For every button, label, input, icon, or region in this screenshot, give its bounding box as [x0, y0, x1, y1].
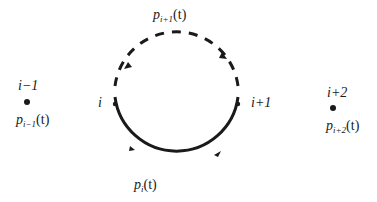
label-base: p: [134, 177, 141, 192]
node-i-label: i: [98, 96, 102, 110]
node-i-dot: [113, 102, 117, 106]
label-sub: i−1: [23, 119, 36, 129]
node-i2-prob: pi+2(t): [326, 119, 359, 135]
label-arg: (t): [346, 118, 359, 133]
arrow-icon: [124, 62, 132, 69]
label-sub: i+2: [333, 125, 346, 135]
arrow-icon: [129, 146, 135, 151]
node-im1-prob: pi−1(t): [16, 113, 49, 129]
label-base: p: [153, 7, 160, 22]
node-i2-dot: [330, 105, 336, 111]
arc-label-dashed: pi+1(t): [153, 8, 186, 24]
label-arg: (t): [36, 112, 49, 127]
node-im1-label: i−1: [18, 79, 38, 93]
label-base: p: [16, 112, 23, 127]
label-arg: (t): [173, 7, 186, 22]
label-base: p: [326, 118, 333, 133]
solid-arc-i-to-i1: [115, 97, 238, 151]
node-im1-dot: [24, 99, 30, 105]
label-arg: (t): [144, 177, 157, 192]
state-diagram: [0, 0, 377, 202]
arc-label-solid: pi(t): [134, 178, 157, 194]
label-sub: i+1: [160, 14, 173, 24]
arrow-icon: [214, 151, 221, 157]
node-i1-label: i+1: [251, 96, 271, 110]
dashed-arc-i1-to-i: [115, 32, 238, 86]
node-i1-dot: [236, 102, 240, 106]
node-i2-label: i+2: [327, 86, 347, 100]
